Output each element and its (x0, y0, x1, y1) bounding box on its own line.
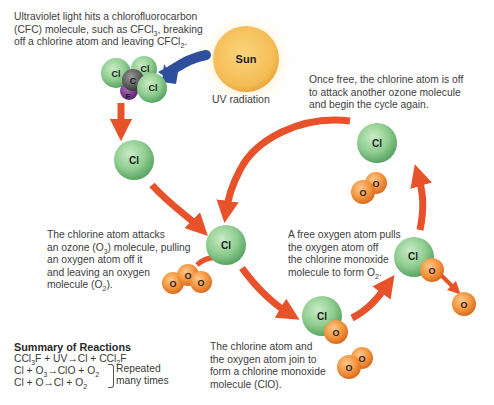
svg-text:Cl: Cl (317, 311, 327, 322)
caption-once-free: Once free, the chlorine atom is off to a… (309, 74, 463, 112)
svg-text:Cl: Cl (408, 251, 418, 262)
svg-text:O: O (460, 300, 467, 310)
uv-radiation-label: UV radiation (212, 93, 270, 105)
caption-free-oxygen: A free oxygen atom pulls the oxygen atom… (288, 229, 401, 279)
svg-text:O: O (345, 363, 352, 373)
svg-text:O: O (197, 278, 204, 288)
svg-text:O: O (358, 354, 365, 364)
caption-uv-hits: Ultraviolet light hits a chlorofluorocar… (14, 11, 203, 49)
svg-text:O: O (359, 188, 366, 198)
summary-title: Summary of Reactions (14, 341, 131, 353)
arrow-icon: → (43, 377, 53, 388)
svg-text:O: O (428, 266, 435, 276)
reaction-1: CCl3F + UV→Cl + CCl2F (14, 353, 131, 365)
chlorine-monoxide-split: Cl O O (394, 237, 476, 316)
svg-text:Cl: Cl (129, 155, 139, 166)
sun-label: Sun (236, 53, 257, 65)
svg-text:O: O (332, 328, 339, 338)
caption-join: The chlorine atom and the oxygen atom jo… (210, 341, 326, 391)
repeated-note: Repeated many times (116, 363, 169, 387)
chlorine-atom-released: Cl O O (351, 123, 397, 204)
cfc-molecule: Cl Cl C F Cl (101, 56, 167, 103)
caption-chlorine-attacks: The chlorine atom attacks an ozone (O3) … (47, 229, 191, 292)
svg-text:C: C (130, 76, 137, 86)
svg-text:Cl: Cl (221, 240, 231, 251)
svg-text:Cl: Cl (372, 138, 382, 149)
svg-text:F: F (126, 92, 131, 101)
svg-text:Cl: Cl (149, 83, 158, 93)
arrow-icon: → (67, 353, 77, 364)
svg-text:Cl: Cl (112, 69, 121, 79)
svg-text:O: O (372, 179, 379, 189)
brace-icon (108, 364, 114, 388)
svg-text:Cl: Cl (141, 64, 150, 74)
arrow-icon: → (47, 365, 57, 376)
chlorine-atom-free: Cl (114, 140, 154, 180)
